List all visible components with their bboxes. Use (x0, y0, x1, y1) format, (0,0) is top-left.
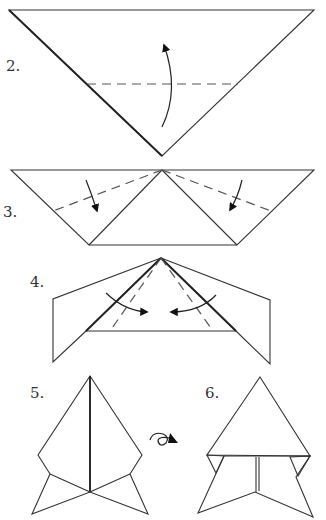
step-3-outline (11, 170, 314, 245)
step-4-right-bold-edge (161, 258, 236, 331)
step-4-right-valley-fold-line (161, 258, 213, 331)
step-5-figure (32, 376, 148, 514)
step-4-left-bold-edge (86, 258, 161, 331)
step-3-right-crease (162, 170, 237, 245)
step-6-left-flap (207, 455, 224, 473)
step-3-right-fold-arrow-icon (230, 180, 242, 210)
step-2-figure (9, 10, 314, 156)
step-5-left-crease (50, 474, 90, 492)
step-4-left-fold-arrow-icon (106, 293, 147, 312)
step-3-right-valley-fold-line (162, 170, 271, 211)
origami-diagram: 2. 3. 4. 5. 6. (0, 0, 326, 520)
step-6-head-triangle (207, 377, 310, 456)
step-6-right-flap (290, 456, 310, 476)
step-6-figure (198, 377, 313, 517)
step-3-figure (11, 170, 314, 245)
step-4-right-fold-arrow-icon (171, 295, 216, 312)
step-4-left-valley-fold-line (110, 258, 161, 331)
step-3-left-valley-fold-line (53, 170, 162, 211)
step-2-fold-arrow-icon (162, 45, 172, 127)
step-3-left-crease (89, 170, 162, 245)
step-3-left-fold-arrow-icon (86, 180, 97, 211)
step-2-triangle (9, 10, 314, 156)
step-4-figure (53, 258, 270, 364)
step-2-double-edge (9, 10, 162, 156)
step-5-right-crease (90, 474, 130, 492)
turn-over-icon (150, 433, 178, 445)
